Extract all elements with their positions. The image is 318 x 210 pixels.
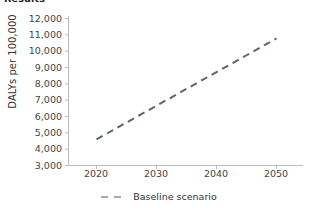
series-line-baseline-scenario — [97, 38, 277, 139]
y-tick-label: 6,000 — [18, 111, 62, 122]
y-tick-label: 9,000 — [18, 62, 62, 73]
y-tick-label: 12,000 — [18, 13, 62, 24]
x-tick-label: 2040 — [196, 168, 236, 179]
x-tick-label: 2030 — [136, 168, 176, 179]
x-axis-tick-labels: 2020 2030 2040 2050 — [0, 168, 318, 184]
y-tick-label: 11,000 — [18, 29, 62, 40]
y-tick-label: 10,000 — [18, 45, 62, 56]
y-tick-label: 4,000 — [18, 143, 62, 154]
y-axis-ticks — [65, 19, 69, 166]
y-axis-title: DALYs per 100,000 — [7, 0, 18, 137]
legend-label-baseline-scenario: Baseline scenario — [133, 191, 217, 202]
legend-dash-swatch — [101, 193, 127, 201]
y-tick-label: 8,000 — [18, 78, 62, 89]
chart-legend: Baseline scenario — [0, 190, 318, 202]
x-tick-label: 2020 — [76, 168, 116, 179]
y-tick-label: 5,000 — [18, 127, 62, 138]
y-tick-label: 7,000 — [18, 94, 62, 105]
chart-figure: Results DALYs per 100,000 12,000 11,000 … — [0, 0, 318, 210]
x-tick-label: 2050 — [256, 168, 296, 179]
